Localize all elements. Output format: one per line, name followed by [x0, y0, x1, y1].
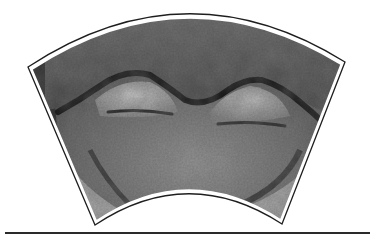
- fan-shaped-photo-figure: [0, 0, 370, 244]
- horizontal-divider-line: [5, 232, 370, 234]
- stone-sculpture-photo: [0, 0, 370, 244]
